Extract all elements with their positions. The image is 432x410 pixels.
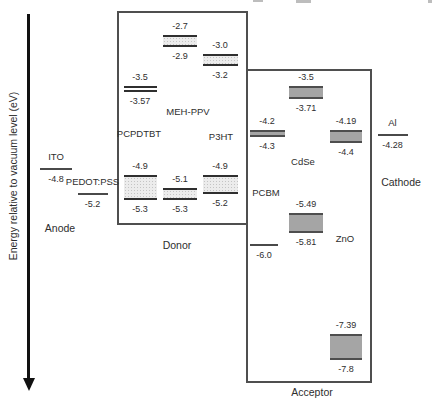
cropped-text-fragment <box>296 0 311 3</box>
ito-energy-level-line <box>40 168 72 170</box>
meh-ppv-energy-band <box>163 188 197 201</box>
p3ht-energy-band <box>203 175 238 194</box>
cdse-energy-band <box>289 86 323 99</box>
energy-axis-arrow-shaft <box>27 14 30 379</box>
energy-axis-arrowhead-icon <box>23 378 35 391</box>
al-label: Al <box>388 117 396 128</box>
zno-band-bottom-value: -4.4 <box>338 147 354 157</box>
pcpdtbt-level-bottom-value: -3.57 <box>130 96 151 106</box>
acceptor-group-label: Acceptor <box>291 386 332 398</box>
anode-group-label: Anode <box>45 222 75 234</box>
cdse-label: CdSe <box>291 156 315 167</box>
p3ht-energy-band <box>203 54 238 67</box>
cdse-band-top-value: -3.5 <box>298 72 314 82</box>
p3ht-label: P3HT <box>209 131 233 142</box>
cdse-band-top-value: -5.49 <box>296 199 317 209</box>
p3ht-band-bottom-value: -5.2 <box>212 198 228 208</box>
meh-ppv-band-top-value: -2.7 <box>172 21 188 31</box>
meh-ppv-band-bottom-value: -2.9 <box>172 51 188 61</box>
zno-energy-band <box>330 334 362 360</box>
cathode-group-label: Cathode <box>381 176 421 188</box>
pcpdtbt-band-top-value: -4.9 <box>132 161 148 171</box>
energy-level-diagram: Energy relative to vacuum level (eV) Ano… <box>0 0 432 410</box>
p3ht-band-top-value: -4.9 <box>212 161 228 171</box>
pcpdtbt-level-top-value: -3.5 <box>132 72 148 82</box>
zno-energy-band <box>330 130 362 143</box>
zno-band-top-value: -7.39 <box>336 320 357 330</box>
pcbm-band-top-value: -4.2 <box>259 116 275 126</box>
energy-axis-label: Energy relative to vacuum level (eV) <box>7 36 19 316</box>
pedot-pss-level-value: -5.2 <box>85 199 101 209</box>
cdse-band-bottom-value: -5.81 <box>296 237 317 247</box>
al-level-value: -4.28 <box>382 140 403 150</box>
p3ht-band-bottom-value: -3.2 <box>212 70 228 80</box>
meh-ppv-band-bottom-value: -5.3 <box>172 204 188 214</box>
meh-ppv-band-top-value: -5.1 <box>172 174 188 184</box>
pcpdtbt-energy-band <box>124 175 157 201</box>
zno-band-top-value: -4.19 <box>336 116 357 126</box>
ito-label: ITO <box>48 151 64 162</box>
pcpdtbt-label: PCPDTBT <box>117 128 161 139</box>
pedot-pss-label: PEDOT:PSS <box>66 176 119 187</box>
al-energy-level-line <box>378 134 408 136</box>
pedot-pss-energy-level-line <box>78 193 108 195</box>
p3ht-band-top-value: -3.0 <box>212 40 228 50</box>
zno-label: ZnO <box>336 233 354 244</box>
zno-band-bottom-value: -7.8 <box>338 364 354 374</box>
cropped-text-fragment <box>253 0 263 2</box>
pcbm-energy-band <box>250 130 285 136</box>
pcbm-label: PCBM <box>252 187 279 198</box>
pcbm-level-value: -6.0 <box>256 250 272 260</box>
cdse-band-bottom-value: -3.71 <box>296 103 317 113</box>
meh-ppv-energy-band <box>163 35 197 48</box>
pcpdtbt-double-level-line <box>124 86 157 93</box>
pcpdtbt-band-bottom-value: -5.3 <box>132 204 148 214</box>
meh-ppv-label: MEH-PPV <box>166 106 209 117</box>
donor-group-label: Donor <box>163 239 192 251</box>
pcbm-energy-level-line <box>250 244 278 246</box>
ito-level-value: -4.8 <box>48 174 64 184</box>
cdse-energy-band <box>289 213 323 233</box>
pcbm-band-bottom-value: -4.3 <box>259 141 275 151</box>
cropped-text-fragment <box>428 0 432 3</box>
